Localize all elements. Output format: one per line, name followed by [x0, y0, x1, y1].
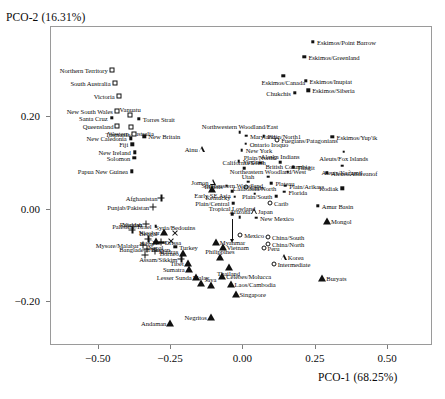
data-point-label: Java [205, 276, 217, 283]
data-point-label: Solomon [107, 154, 130, 161]
data-point-label: China/South [272, 234, 304, 241]
x-axis-title: PCO-1 (68.25%) [318, 371, 397, 383]
data-point-label: Victoria [94, 93, 115, 100]
y-tick [46, 301, 50, 302]
data-point-label: New Mexico [260, 214, 294, 221]
x-tick-label: 0.00 [233, 352, 252, 364]
x-tick [242, 345, 243, 349]
x-tick [387, 345, 388, 349]
data-point-label: Utah [242, 172, 255, 179]
x-tick [170, 345, 171, 349]
data-point-label: Ainu [185, 146, 198, 153]
data-point-label: South Australia [70, 80, 110, 87]
data-point-label: Vanuatu [120, 106, 141, 113]
data-point-label: Mexico [244, 231, 264, 238]
data-point-label: New South Wales [67, 107, 113, 114]
y-axis-title: PCO-2 (16.31%) [6, 11, 85, 23]
data-point-label: Bengal [139, 230, 157, 237]
data-point-label: Punjab/Pakistan [107, 204, 149, 211]
pco-scatter-plot: PCO-2 (16.31%) PCO-1 (68.25%) −0.50−0.25… [0, 0, 445, 399]
data-point-label: Andaman [141, 320, 166, 327]
x-tick [315, 345, 316, 349]
data-point-label: Turkey [179, 243, 198, 250]
x-tick-label: −0.50 [85, 352, 110, 364]
data-point-label: Philippines [205, 248, 234, 255]
x-tick-label: 0.25 [305, 352, 324, 364]
data-point-label: Syria/Bedouins [155, 223, 195, 230]
data-point-label: Korea [288, 254, 304, 261]
data-point-label: Japan [258, 207, 273, 214]
data-point-label: Northwestern Woodland/East [202, 123, 278, 130]
data-point-label: California/North [233, 184, 276, 191]
data-point-label: Eskimos/Point Barrow [317, 38, 376, 45]
data-point-label: Laos/Cambodia [235, 280, 276, 287]
data-point-label: Afghanistan [126, 194, 158, 201]
data-point-label: Buryats [326, 275, 346, 282]
y-tick [46, 116, 50, 117]
data-point-label: Singapore [240, 290, 266, 297]
data-point-label: Carib [274, 200, 288, 207]
y-tick-label: −0.20 [15, 295, 40, 307]
data-point-label: Aleuts/Andreanof [331, 170, 377, 177]
data-point-label: Sumatra [163, 265, 185, 272]
data-point-label: Eskimos/Canada [261, 78, 305, 85]
data-point-label: Florida [288, 188, 307, 195]
data-point-label: New Britain [148, 133, 180, 140]
y-tick [46, 209, 50, 210]
annotation-arrow [232, 219, 233, 239]
data-point-label: Arizona [229, 207, 250, 214]
data-point-label: Torres Strait [143, 115, 175, 122]
data-point-label: Intermediate [278, 261, 311, 268]
data-point-label: Northern Territory [60, 67, 108, 74]
data-point-label: Kodiak [319, 185, 338, 192]
data-point-label: Aleuts/Fox Islands [319, 154, 368, 161]
data-point-label: California/South [223, 159, 266, 166]
data-point-label: Plain/South [242, 193, 272, 200]
data-point-label: Amur Basin [322, 202, 354, 209]
data-point-label: Santa Cruz [79, 115, 108, 122]
data-point-label: Fuegians/Patagonians [281, 137, 338, 144]
x-tick-label: −0.25 [157, 352, 182, 364]
data-point-label: Mongol [331, 218, 352, 225]
data-point-label: Eskimos/Siberia [312, 87, 354, 94]
data-point-label: Lesser Sunda [157, 274, 192, 281]
data-point-label: Eskimos/Greenland [308, 53, 359, 60]
data-point-label: Eskimos/Inupiat [310, 78, 352, 85]
y-tick-label: 0.00 [21, 203, 40, 215]
data-point-label: Papua New Guinea [78, 168, 128, 175]
data-point-label: Alaska Indians [261, 153, 300, 160]
data-point-label: Peru [268, 245, 280, 252]
y-tick-label: 0.20 [21, 110, 40, 122]
data-point-label: Voddah [123, 220, 143, 227]
data-point-label: Negritos [185, 314, 207, 321]
x-tick [98, 345, 99, 349]
data-point-label: Eskimos/Yup'ik [336, 133, 377, 140]
data-point-label: Celebes/Molucca [226, 272, 271, 279]
data-point-label: Fiji [119, 141, 128, 148]
data-point-label: Chukchis [266, 89, 291, 96]
x-tick-label: 0.50 [378, 352, 397, 364]
